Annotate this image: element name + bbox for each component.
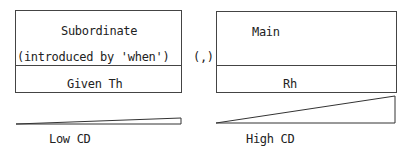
high-cd-label: High CD <box>246 132 294 146</box>
high-cd-wedge <box>216 96 395 123</box>
low-cd-wedge <box>16 118 181 124</box>
communicative-dynamism-wedges <box>0 0 407 151</box>
low-cd-label: Low CD <box>49 132 91 146</box>
